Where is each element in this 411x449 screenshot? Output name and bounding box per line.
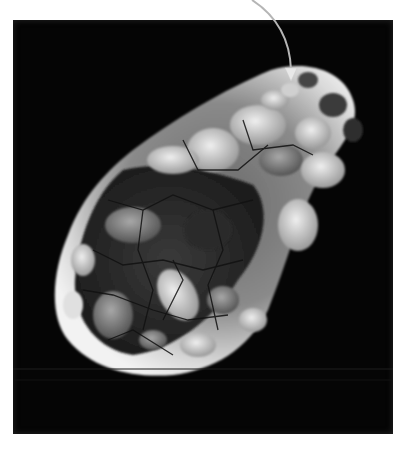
specimen-photo	[13, 20, 393, 434]
rock-specimen	[13, 20, 393, 434]
